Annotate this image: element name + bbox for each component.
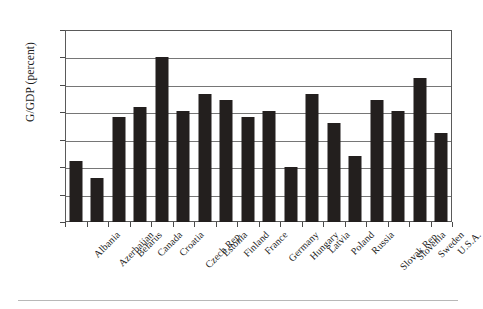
bar bbox=[155, 57, 168, 222]
x-tick-label: Albania bbox=[91, 229, 122, 260]
x-tick-mark bbox=[216, 222, 217, 227]
x-tick-mark bbox=[431, 222, 432, 227]
bar-slot bbox=[280, 30, 302, 222]
bar bbox=[349, 156, 362, 222]
bar-slot bbox=[130, 30, 152, 222]
x-tick-mark bbox=[173, 222, 174, 227]
x-tick-mark bbox=[452, 222, 453, 227]
bar-slot bbox=[345, 30, 367, 222]
x-tick-mark bbox=[280, 222, 281, 227]
bar bbox=[263, 111, 276, 222]
x-tick-mark bbox=[345, 222, 346, 227]
bar bbox=[112, 117, 125, 222]
bar-slot bbox=[409, 30, 431, 222]
x-tick-mark bbox=[302, 222, 303, 227]
x-tick-label: Poland bbox=[348, 229, 376, 257]
y-axis-title: G/GDP (percent) bbox=[24, 22, 36, 142]
bar-slot bbox=[87, 30, 109, 222]
x-tick-mark bbox=[259, 222, 260, 227]
x-tick-mark bbox=[65, 222, 66, 227]
x-tick-mark bbox=[194, 222, 195, 227]
bar bbox=[370, 100, 383, 222]
x-tick-mark bbox=[366, 222, 367, 227]
bar bbox=[392, 111, 405, 222]
bar-slot bbox=[431, 30, 453, 222]
bar bbox=[306, 94, 319, 222]
bar bbox=[220, 100, 233, 222]
bar bbox=[327, 123, 340, 222]
bar bbox=[177, 111, 190, 222]
bottom-rule bbox=[18, 300, 458, 301]
bar-slot bbox=[323, 30, 345, 222]
x-tick-mark bbox=[409, 222, 410, 227]
x-tick-mark bbox=[151, 222, 152, 227]
bar bbox=[69, 161, 82, 222]
bar bbox=[413, 78, 426, 222]
bar bbox=[241, 117, 254, 222]
bar-slot bbox=[216, 30, 238, 222]
bar bbox=[134, 107, 147, 222]
bars-layer bbox=[65, 30, 452, 222]
bar-slot bbox=[302, 30, 324, 222]
x-tick-mark bbox=[87, 222, 88, 227]
x-tick-mark bbox=[237, 222, 238, 227]
x-tick-mark bbox=[323, 222, 324, 227]
bar-slot bbox=[259, 30, 281, 222]
x-tick-mark bbox=[130, 222, 131, 227]
x-tick-mark bbox=[108, 222, 109, 227]
bar bbox=[198, 94, 211, 222]
bar bbox=[435, 133, 448, 222]
bar bbox=[284, 167, 297, 222]
x-tick-mark bbox=[388, 222, 389, 227]
bar bbox=[91, 178, 104, 222]
bar-slot bbox=[366, 30, 388, 222]
bar-slot bbox=[388, 30, 410, 222]
bar-slot bbox=[237, 30, 259, 222]
bar-slot bbox=[151, 30, 173, 222]
bar-slot bbox=[65, 30, 87, 222]
bar-slot bbox=[108, 30, 130, 222]
bar-slot bbox=[194, 30, 216, 222]
bar-slot bbox=[173, 30, 195, 222]
x-axis-labels: AlbaniaAzerbaijanBelarusCanadaCroatiaCze… bbox=[65, 229, 452, 299]
